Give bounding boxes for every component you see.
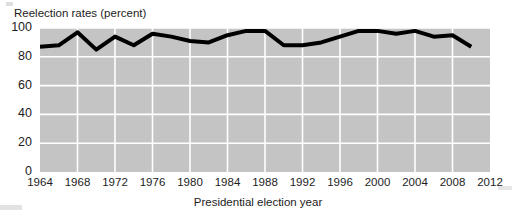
x-axis-tick-label: 1996: [320, 176, 360, 189]
chart-title: Reelection rates (percent): [14, 7, 146, 20]
gridlines: [40, 28, 490, 172]
speck-artifact-1: [6, 2, 13, 6]
x-axis-tick-label: 2000: [358, 176, 398, 189]
y-axis-tick-label: 100: [2, 21, 32, 34]
x-axis-tick-label: 1984: [208, 176, 248, 189]
y-axis-tick-label: 20: [2, 136, 32, 149]
speck-artifact-3: [498, 186, 512, 190]
x-axis-tick-label: 2008: [433, 176, 473, 189]
x-axis-tick-label: 1988: [245, 176, 285, 189]
plot-svg: [40, 28, 490, 172]
plot-area: [40, 28, 490, 172]
x-axis-tick-label: 1964: [20, 176, 60, 189]
data-series-line: [40, 31, 471, 50]
x-axis-tick-label: 1992: [283, 176, 323, 189]
x-axis-tick-label: 1976: [133, 176, 173, 189]
reelection-rates-chart: Reelection rates (percent) 020406080100 …: [0, 0, 516, 216]
speck-artifact-2: [0, 205, 22, 210]
x-axis-caption: Presidential election year: [0, 196, 516, 208]
y-axis-tick-label: 80: [2, 50, 32, 63]
x-axis-tick-label: 1968: [58, 176, 98, 189]
y-axis-tick-label: 60: [2, 79, 32, 92]
y-axis-tick-label: 40: [2, 107, 32, 120]
x-axis-tick-label: 2004: [395, 176, 435, 189]
x-axis-tick-label: 1980: [170, 176, 210, 189]
x-axis-tick-label: 1972: [95, 176, 135, 189]
